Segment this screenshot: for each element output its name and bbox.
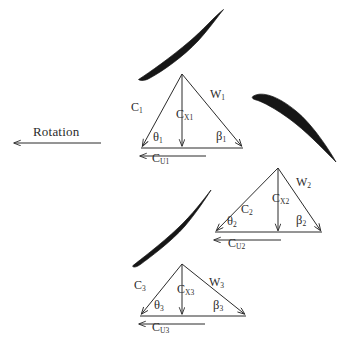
- triangle-3-cx-label: CX3: [177, 283, 194, 295]
- triangle-2-w-subscript: 2: [307, 181, 311, 190]
- triangle-2-c-label: C2: [241, 203, 253, 215]
- triangle-1-c-subscript: 1: [139, 106, 143, 115]
- triangle-3-c-subscript: 3: [142, 284, 146, 293]
- triangle-3-cu-symbol: C: [152, 320, 160, 334]
- triangle-2-c-symbol: C: [241, 202, 249, 216]
- triangle-2-theta-subscript: 2: [233, 220, 237, 229]
- triangle-2-cu-symbol: C: [228, 236, 236, 250]
- triangle-1-c-symbol: C: [131, 100, 139, 114]
- triangle-1-w-subscript: 1: [221, 93, 225, 102]
- triangle-2-cu-subscript: U2: [236, 242, 245, 251]
- velocity-triangle-figure: Rotation C1 CX1 W1 θ1 β1 CU1 C2 CX2 W2 θ…: [0, 0, 343, 346]
- triangle-3-beta-label: β3: [213, 299, 223, 312]
- triangle-1-theta-label: θ1: [153, 131, 163, 144]
- triangle-1-beta-subscript: 1: [222, 135, 226, 144]
- triangle-1-cx-subscript: X1: [184, 113, 193, 122]
- rotation-label: Rotation: [33, 125, 79, 138]
- triangle-2-c-subscript: 2: [249, 208, 253, 217]
- triangle-3-w-label: W3: [209, 276, 224, 288]
- triangle-3-cu-subscript: U3: [160, 326, 169, 335]
- triangle-3-w-subscript: 3: [220, 281, 224, 290]
- triangle-1-beta-label: β1: [216, 130, 226, 143]
- triangle-2-cx-symbol: C: [272, 191, 280, 205]
- blade-2-airfoil: [252, 94, 336, 162]
- triangle-3-beta-subscript: 3: [219, 304, 223, 313]
- triangle-3-theta-label: θ3: [154, 299, 164, 312]
- figure-canvas: [0, 0, 343, 346]
- triangle-2-cu-label: CU2: [228, 237, 245, 249]
- triangle-2-cx-label: CX2: [272, 192, 289, 204]
- triangle-1-cu-label: CU1: [152, 152, 169, 164]
- triangle-1-theta-subscript: 1: [159, 136, 163, 145]
- triangle-2-theta-label: θ2: [227, 215, 237, 228]
- triangle-2-beta-subscript: 2: [302, 219, 306, 228]
- triangle-3-theta-subscript: 3: [160, 304, 164, 313]
- triangle-3-c-label: C3: [134, 279, 146, 291]
- triangle-2-cx-subscript: X2: [280, 197, 289, 206]
- triangle-2-w-label: W2: [296, 176, 311, 188]
- triangle-3-cu-label: CU3: [152, 321, 169, 333]
- triangle-3-cx-subscript: X3: [185, 288, 194, 297]
- triangle-2-beta-label: β2: [296, 214, 306, 227]
- triangle-2-c-vector: [217, 168, 279, 231]
- triangle-3-cx-symbol: C: [177, 282, 185, 296]
- triangle-1-cu-symbol: C: [152, 151, 160, 165]
- triangle-1-w-label: W1: [210, 88, 225, 100]
- triangle-3-w-symbol: W: [209, 275, 220, 289]
- triangle-2-w-symbol: W: [296, 175, 307, 189]
- triangle-1-w-symbol: W: [210, 87, 221, 101]
- triangle-1-cu-subscript: U1: [160, 157, 169, 166]
- triangle-1-c-label: C1: [131, 101, 143, 113]
- blade-1-airfoil: [139, 10, 224, 81]
- triangle-1-cx-label: CX1: [176, 108, 193, 120]
- blade-3-airfoil: [133, 190, 212, 267]
- triangle-1-cx-symbol: C: [176, 107, 184, 121]
- triangle-3-c-symbol: C: [134, 278, 142, 292]
